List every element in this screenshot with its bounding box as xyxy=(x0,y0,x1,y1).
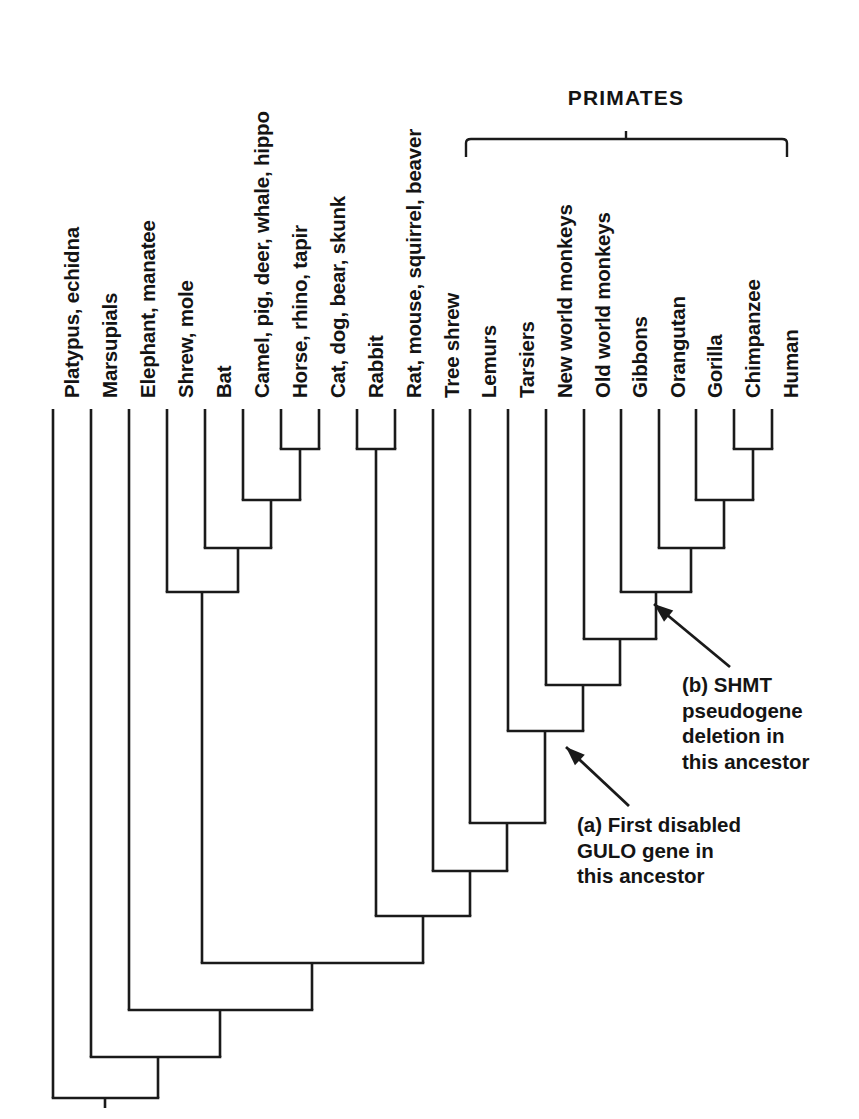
tip-label-19: Human xyxy=(779,330,803,398)
cladogram-figure: Platypus, echidnaMarsupialsElephant, man… xyxy=(0,0,859,1119)
tip-label-8: Rabbit xyxy=(364,335,388,398)
primates-bracket-group xyxy=(466,131,787,157)
tip-label-16: Orangutan xyxy=(666,296,690,398)
tip-label-12: Tarsiers xyxy=(515,321,539,398)
tip-label-9: Rat, mouse, squirrel, beaver xyxy=(402,129,426,398)
primates-bracket-label: PRIMATES xyxy=(568,86,685,110)
tip-label-11: Lemurs xyxy=(477,325,501,398)
tip-branches-group xyxy=(53,409,772,1098)
tip-label-1: Marsupials xyxy=(98,293,122,398)
primates-bracket xyxy=(466,139,787,157)
tip-label-3: Shrew, mole xyxy=(174,280,198,398)
tip-label-15: Gibbons xyxy=(628,316,652,398)
tip-label-7: Cat, dog, bear, skunk xyxy=(326,196,350,398)
tip-label-5: Camel, pig, deer, whale, hippo xyxy=(250,111,274,398)
tip-label-17: Gorilla xyxy=(703,334,727,398)
tip-label-18: Chimpanzee xyxy=(741,279,765,398)
tree-drawing xyxy=(0,0,859,1119)
internal-nodes-group xyxy=(52,449,774,1098)
tip-label-0: Platypus, echidna xyxy=(60,227,84,398)
tip-label-14: Old world monkeys xyxy=(591,212,615,398)
tip-label-4: Bat xyxy=(212,366,236,398)
tip-label-13: New world monkeys xyxy=(553,204,577,398)
annotation-text-b: (b) SHMT pseudogene deletion in this anc… xyxy=(682,672,810,774)
tip-label-6: Horse, rhino, tapir xyxy=(288,225,312,398)
annotation-text-a: (a) First disabled GULO gene in this anc… xyxy=(577,812,741,889)
tip-label-2: Elephant, manatee xyxy=(136,220,160,398)
tip-label-10: Tree shrew xyxy=(440,293,464,398)
